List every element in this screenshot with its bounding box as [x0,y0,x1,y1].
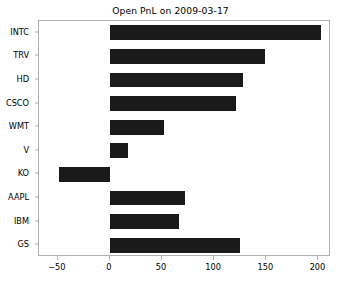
bar-ko [59,167,110,182]
bar-csco [110,96,236,111]
bar-gs [110,238,240,253]
x-tick-label-1: 0 [106,262,111,272]
figure-canvas: Open PnL on 2009-03-17 INTCTRVHDCSCOWMTV… [0,0,341,287]
y-tick-label-intc: INTC [10,27,29,37]
x-tick-mark-1 [109,256,110,260]
x-tick-label-3: 100 [205,262,221,272]
bar-hd [110,73,243,88]
x-tick-label-0: −50 [48,262,65,272]
y-tick-label-ko: KO [18,168,29,178]
x-tick-label-2: 50 [156,262,166,272]
x-tick-mark-0 [57,256,58,260]
y-tick-label-gs: GS [17,239,29,249]
plot-area [38,20,330,256]
bar-aapl [110,191,185,206]
y-tick-label-hd: HD [17,74,29,84]
x-tick-label-4: 150 [258,262,274,272]
bar-v [110,143,128,158]
x-tick-mark-3 [213,256,214,260]
x-tick-mark-2 [161,256,162,260]
y-tick-label-v: V [23,145,29,155]
bar-wmt [110,120,164,135]
x-tick-mark-4 [265,256,266,260]
y-tick-label-aapl: AAPL [8,192,29,202]
bar-trv [110,49,265,64]
x-tick-mark-5 [317,256,318,260]
y-axis-tick-labels: INTCTRVHDCSCOWMTVKOAAPLIBMGS [0,20,34,256]
x-tick-label-5: 200 [310,262,326,272]
y-tick-label-trv: TRV [13,50,29,60]
y-tick-label-ibm: IBM [14,216,29,226]
page-title: Open PnL on 2009-03-17 [0,5,341,16]
y-tick-label-csco: CSCO [6,98,29,108]
bar-intc [110,25,321,40]
x-axis-tick-labels: −50050100150200 [38,256,330,282]
bar-series [39,21,329,255]
y-tick-label-wmt: WMT [9,121,29,131]
bar-ibm [110,214,179,229]
